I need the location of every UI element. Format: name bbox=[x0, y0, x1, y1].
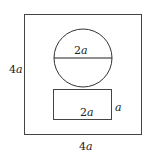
square-left-label: 4a bbox=[9, 63, 23, 76]
square-bottom-label: 4a bbox=[79, 140, 93, 153]
diameter-label: 2a bbox=[74, 44, 88, 57]
rect-height-label: a bbox=[115, 101, 122, 114]
rect-width-label: 2a bbox=[80, 106, 94, 119]
geometry-diagram: 2a 2a a 4a 4a bbox=[0, 0, 147, 156]
